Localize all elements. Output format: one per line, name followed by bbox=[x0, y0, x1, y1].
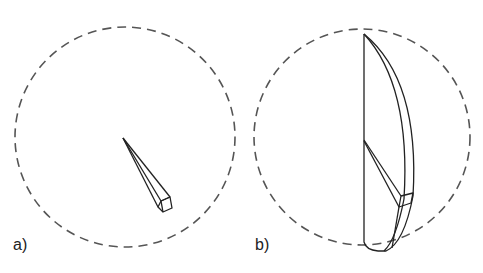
panel-label-b: b) bbox=[255, 236, 269, 254]
panel-a bbox=[15, 27, 235, 247]
panel-label-a: a) bbox=[13, 236, 27, 254]
dashed-circle-a bbox=[15, 27, 235, 247]
lens-shape-b bbox=[364, 34, 414, 251]
panel-b bbox=[254, 29, 470, 251]
figure: a) b) bbox=[0, 0, 483, 273]
wedge-a bbox=[123, 138, 172, 212]
dashed-circle-b bbox=[254, 29, 470, 245]
diagram-canvas bbox=[0, 0, 483, 273]
